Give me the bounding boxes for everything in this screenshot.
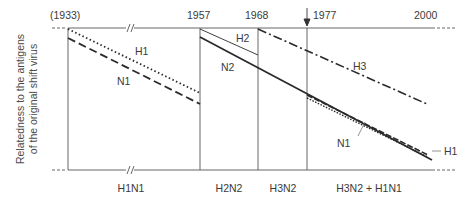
n2-label: N2 <box>221 61 235 73</box>
subtype-labels: H1N1 H2N2 H3N2 H3N2 + H1N1 <box>118 182 402 194</box>
h3-label: H3 <box>353 60 367 72</box>
n1-line-1977 <box>307 95 428 155</box>
subtype-label-h1n1: H1N1 <box>118 182 145 194</box>
antigenic-drift-diagram: Relatedness to the antigens of the origi… <box>0 0 475 205</box>
year-labels: (1933) 1957 1968 1977 2000 <box>50 9 438 21</box>
h2-label: H2 <box>236 32 250 44</box>
axis-break-bottom-icon <box>127 166 134 174</box>
y-axis-label: Relatedness to the antigens of the origi… <box>14 34 39 164</box>
n1-line-1933 <box>68 38 200 104</box>
year-label-1977: 1977 <box>313 9 337 21</box>
y-axis-label-line1: Relatedness to the antigens <box>14 34 26 164</box>
subtype-label-h2n2: H2N2 <box>216 182 243 194</box>
n1-label-1933: N1 <box>117 75 131 87</box>
top-axis <box>52 24 455 32</box>
year-label-1933: (1933) <box>50 9 80 21</box>
year-label-1968: 1968 <box>245 9 269 21</box>
period-boundaries <box>68 28 307 170</box>
year-label-1957: 1957 <box>187 9 211 21</box>
arrow-down-icon <box>304 8 310 26</box>
h1-label-1933: H1 <box>135 45 149 57</box>
h1-line-1933 <box>68 29 200 93</box>
bottom-axis <box>52 166 455 174</box>
subtype-label-h3n2: H3N2 <box>270 182 297 194</box>
n1-label-1977: N1 <box>337 137 351 149</box>
year-label-2000: 2000 <box>414 9 438 21</box>
axis-break-top-icon <box>127 24 134 32</box>
h1-line-1977 <box>307 98 428 157</box>
h1-label-1977: H1 <box>444 145 458 157</box>
subtype-label-h3n2-h1n1: H3N2 + H1N1 <box>336 182 402 194</box>
y-axis-label-line2: of the original shift virus <box>27 44 39 154</box>
h3-line <box>258 29 427 104</box>
